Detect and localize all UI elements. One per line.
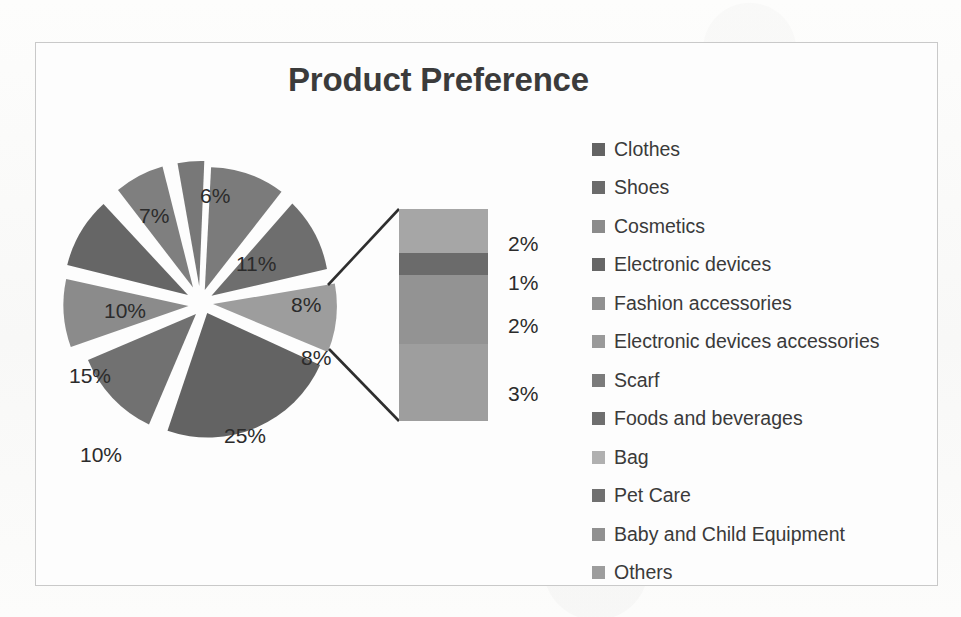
legend-item-label: Electronic devices accessories bbox=[614, 332, 880, 352]
legend-item-pet-care[interactable]: Pet Care bbox=[592, 477, 932, 516]
bar-segment-1 bbox=[399, 253, 488, 275]
pie-label-8-a: 8% bbox=[291, 293, 321, 317]
legend-swatch-icon bbox=[592, 489, 605, 502]
pie-label-8-others: 8% bbox=[301, 346, 331, 370]
legend-item-label: Foods and beverages bbox=[614, 409, 803, 429]
legend-item-electronic-devices[interactable]: Electronic devices bbox=[592, 246, 932, 285]
legend-item-fashion-accessories[interactable]: Fashion accessories bbox=[592, 284, 932, 323]
pie-label-7: 7% bbox=[139, 204, 169, 228]
legend-swatch-icon bbox=[592, 412, 605, 425]
legend-item-scarf[interactable]: Scarf bbox=[592, 361, 932, 400]
pie-label-10-a: 10% bbox=[80, 443, 122, 467]
chart-frame: Product Preference bbox=[35, 42, 938, 586]
legend-item-electronic-devices-accessories[interactable]: Electronic devices accessories bbox=[592, 323, 932, 362]
pie-label-10-b: 10% bbox=[104, 299, 146, 323]
legend-swatch-icon bbox=[592, 528, 605, 541]
bar-segment-2-mid bbox=[399, 275, 488, 344]
legend-item-label: Shoes bbox=[614, 178, 669, 198]
bar-segment-2-top bbox=[399, 209, 488, 253]
pie-label-15: 15% bbox=[69, 364, 111, 388]
legend-swatch-icon bbox=[592, 258, 605, 271]
legend-item-label: Others bbox=[614, 563, 673, 583]
legend-item-label: Baby and Child Equipment bbox=[614, 525, 845, 545]
bar-label-2-mid: 2% bbox=[508, 314, 538, 338]
legend-item-label: Cosmetics bbox=[614, 217, 705, 237]
chart-legend: Clothes Shoes Cosmetics Electronic devic… bbox=[592, 130, 932, 592]
bar-label-1: 1% bbox=[508, 271, 538, 295]
legend-item-baby-and-child-equipment[interactable]: Baby and Child Equipment bbox=[592, 515, 932, 554]
connector-lines bbox=[328, 209, 399, 421]
connector-line-bottom bbox=[329, 349, 399, 421]
pie-label-11: 11% bbox=[236, 252, 276, 276]
connector-line-top bbox=[328, 209, 399, 285]
legend-item-shoes[interactable]: Shoes bbox=[592, 169, 932, 208]
bar-label-2-top: 2% bbox=[508, 232, 538, 256]
legend-item-label: Fashion accessories bbox=[614, 294, 792, 314]
legend-item-bag[interactable]: Bag bbox=[592, 438, 932, 477]
legend-item-label: Clothes bbox=[614, 140, 680, 160]
pie-label-25: 25% bbox=[224, 424, 266, 448]
legend-item-label: Scarf bbox=[614, 371, 660, 391]
legend-swatch-icon bbox=[592, 335, 605, 348]
legend-item-cosmetics[interactable]: Cosmetics bbox=[592, 207, 932, 246]
bar-segment-3 bbox=[399, 344, 488, 421]
legend-swatch-icon bbox=[592, 566, 605, 579]
legend-swatch-icon bbox=[592, 220, 605, 233]
bar-label-3: 3% bbox=[508, 382, 538, 406]
stacked-bar bbox=[399, 209, 488, 421]
legend-swatch-icon bbox=[592, 451, 605, 464]
legend-swatch-icon bbox=[592, 143, 605, 156]
legend-item-foods-and-beverages[interactable]: Foods and beverages bbox=[592, 400, 932, 439]
legend-item-clothes[interactable]: Clothes bbox=[592, 130, 932, 169]
legend-swatch-icon bbox=[592, 181, 605, 194]
legend-item-label: Bag bbox=[614, 448, 649, 468]
legend-item-label: Pet Care bbox=[614, 486, 691, 506]
legend-item-others[interactable]: Others bbox=[592, 554, 932, 593]
legend-swatch-icon bbox=[592, 297, 605, 310]
pie-label-6: 6% bbox=[200, 184, 230, 208]
legend-item-label: Electronic devices bbox=[614, 255, 771, 275]
legend-swatch-icon bbox=[592, 374, 605, 387]
plot-area: 6% 7% 11% 8% 10% 8% 15% 25% 10% 2% 1% 2%… bbox=[36, 43, 596, 587]
